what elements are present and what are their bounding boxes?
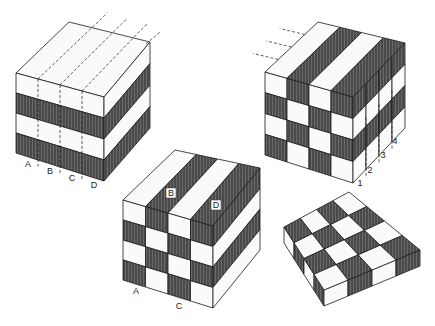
cube-diagram: ABCD1234BDAC	[0, 0, 435, 326]
slice-label-D: D	[91, 180, 98, 190]
slice-label-C: C	[69, 173, 76, 183]
slice-label-A: A	[133, 286, 139, 296]
slice-label-1: 1	[357, 178, 362, 188]
striped-cube	[16, 13, 160, 181]
slice-label-B: B	[47, 166, 53, 176]
checkered-cube-lettered	[123, 150, 260, 308]
slice-label-2: 2	[367, 165, 372, 175]
slice-label-C: C	[176, 301, 183, 311]
checkered-slab	[284, 192, 420, 306]
slice-label-4: 4	[392, 136, 397, 146]
slice-label-D: D	[213, 200, 220, 210]
slice-label-3: 3	[380, 150, 385, 160]
slice-label-B: B	[168, 188, 174, 198]
slice-label-A: A	[25, 159, 31, 169]
